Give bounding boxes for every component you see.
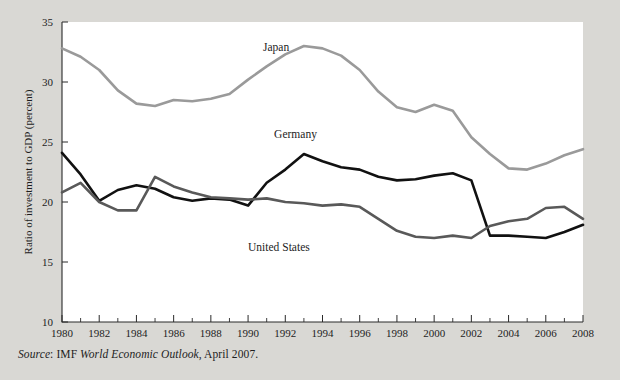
source-publication-title: World Economic Outlook [80, 348, 199, 360]
x-tick-label: 1992 [274, 327, 296, 339]
x-tick-label: 1988 [200, 327, 223, 339]
x-tick-label: 2002 [460, 327, 482, 339]
plot-background [62, 22, 583, 322]
y-tick-labels: 101520253035 [42, 16, 54, 328]
y-tick-label: 30 [42, 76, 54, 88]
investment-gdp-line-chart: 101520253035 198019821984198619881990199… [0, 0, 620, 340]
x-tick-label: 2004 [498, 327, 521, 339]
source-note: Source: IMF World Economic Outlook, Apri… [18, 348, 258, 360]
x-tick-label: 1980 [51, 327, 74, 339]
x-tick-label: 1984 [125, 327, 148, 339]
x-tick-label: 1982 [88, 327, 110, 339]
series-label-united-states: United States [248, 241, 310, 253]
source-date: , April 2007. [199, 348, 258, 360]
figure-root: 101520253035 198019821984198619881990199… [0, 0, 620, 380]
y-axis-title: Ratio of investment to GDP (percent) [22, 89, 35, 254]
x-tick-label: 2006 [535, 327, 558, 339]
x-tick-label: 2008 [572, 327, 595, 339]
source-middle: : IMF [50, 348, 80, 360]
y-tick-label: 25 [42, 136, 54, 148]
x-tick-label: 1990 [237, 327, 260, 339]
x-tick-labels: 1980198219841986198819901992199419961998… [51, 327, 595, 339]
x-tick-label: 1994 [312, 327, 335, 339]
chart-area: 101520253035 198019821984198619881990199… [0, 0, 620, 340]
y-tick-label: 15 [42, 256, 54, 268]
x-tick-label: 1998 [386, 327, 409, 339]
series-label-germany: Germany [274, 128, 317, 141]
x-tick-label: 1996 [349, 327, 372, 339]
x-tick-label: 2000 [423, 327, 446, 339]
series-label-japan: Japan [263, 41, 289, 54]
source-label: Source [18, 348, 50, 360]
y-tick-label: 20 [42, 196, 54, 208]
x-tick-label: 1986 [163, 327, 186, 339]
y-tick-label: 35 [42, 16, 54, 28]
